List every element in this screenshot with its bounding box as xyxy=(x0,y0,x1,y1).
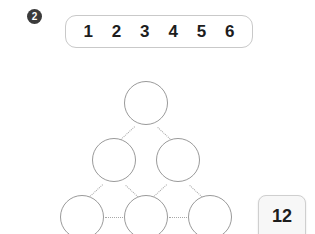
number-choice-3[interactable]: 3 xyxy=(131,23,159,40)
pyramid-cell-row2-col1[interactable] xyxy=(92,138,136,182)
pyramid-cell-row1-col1[interactable] xyxy=(124,81,168,125)
number-choice-2[interactable]: 2 xyxy=(102,23,130,40)
question-number-badge: 2 xyxy=(27,9,42,24)
number-choice-4[interactable]: 4 xyxy=(159,23,187,40)
number-choice-bar: 1 2 3 4 5 6 xyxy=(65,15,253,48)
answer-tile-value: 12 xyxy=(272,207,292,225)
number-choice-6[interactable]: 6 xyxy=(216,23,244,40)
worksheet-canvas: 2 1 2 3 4 5 6 12 xyxy=(0,0,315,234)
answer-tile[interactable]: 12 xyxy=(258,195,306,234)
pyramid-cell-row2-col2[interactable] xyxy=(156,138,200,182)
number-choice-5[interactable]: 5 xyxy=(187,23,215,40)
connector-bottom-center-to-right xyxy=(169,217,189,218)
pyramid-cell-row3-col1[interactable] xyxy=(60,195,104,234)
pyramid-cell-row3-col3[interactable] xyxy=(188,195,232,234)
connector-bottom-left-to-center xyxy=(105,217,125,218)
pyramid-cell-row3-col2[interactable] xyxy=(124,195,168,234)
number-choice-1[interactable]: 1 xyxy=(74,23,102,40)
